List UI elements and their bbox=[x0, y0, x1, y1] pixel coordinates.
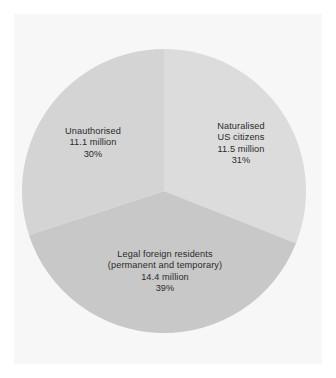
pie-chart-area: Naturalised US citizens 11.5 million 31%… bbox=[0, 0, 336, 378]
pie-chart-figure: Naturalised US citizens 11.5 million 31%… bbox=[0, 0, 336, 378]
pie-slice-group bbox=[22, 49, 306, 333]
pie-chart-svg bbox=[0, 0, 336, 378]
